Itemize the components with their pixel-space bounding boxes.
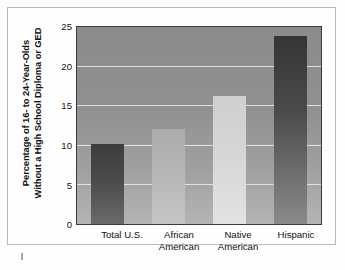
y-tick-label-20: 20 [52,61,72,72]
x-label-line-1: Hispanic [278,229,315,240]
y-tick-label-5: 5 [52,180,72,191]
y-tick-label-0: 0 [52,219,72,230]
figure: Percentage of 16- to 24-Year-Olds Withou… [0,0,345,270]
bar-hispanic [274,36,307,224]
plot-area [76,26,322,225]
x-label-hispanic: Hispanic [246,229,345,241]
y-axis-title-line-2: Without a High School Diploma or GED [32,28,44,199]
corner-mark [21,253,23,260]
y-tick-label-15: 15 [52,100,72,111]
x-label-line-2: American [188,241,288,253]
x-axis-tick-labels: Total U.S. African American Native Ameri… [76,229,322,265]
bar-series [77,27,321,224]
y-tick-label-10: 10 [52,140,72,151]
bar-total-u-s [91,144,124,224]
y-axis-title: Percentage of 16- to 24-Year-Olds Withou… [15,13,49,213]
y-axis-tick-labels: 25 20 15 10 5 0 [48,0,72,270]
bar-african-american [152,129,185,224]
bar-native-american [213,96,246,224]
y-tick-label-25: 25 [52,21,72,32]
y-axis-title-line-1: Percentage of 16- to 24-Year-Olds [20,40,32,186]
